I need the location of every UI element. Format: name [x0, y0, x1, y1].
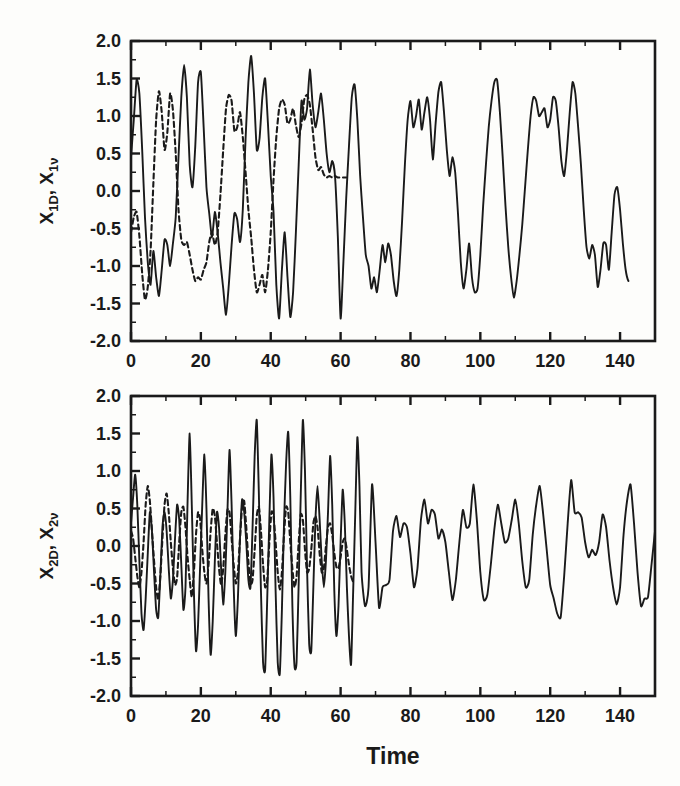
ytick-label: -2.0	[90, 331, 121, 351]
ytick-label: 0.5	[96, 499, 121, 519]
xtick-label: 100	[465, 706, 495, 726]
xtick-label: 20	[191, 351, 211, 371]
panel-top: 020406080100120140-2.0-1.5-1.0-0.50.00.5…	[36, 31, 655, 371]
xtick-label: 120	[535, 706, 565, 726]
ytick-label: 0.5	[96, 144, 121, 164]
ytick-label: 1.0	[96, 461, 121, 481]
ytick-label: 0.0	[96, 181, 121, 201]
ytick-label: -2.0	[90, 686, 121, 706]
ytick-label: 1.5	[96, 69, 121, 89]
ytick-label: 1.5	[96, 424, 121, 444]
x-axis-label-bottom: Time	[366, 743, 419, 769]
xtick-label: 80	[400, 351, 420, 371]
xtick-label: 60	[331, 351, 351, 371]
series-group-top	[131, 56, 628, 319]
panel-bottom: 020406080100120140-2.0-1.5-1.0-0.50.00.5…	[36, 386, 655, 769]
y-axis-label-text: X1D, X1ν	[36, 157, 61, 224]
plot-frame-top	[131, 41, 655, 341]
xtick-label: 120	[535, 351, 565, 371]
xtick-label: 140	[605, 351, 635, 371]
ytick-label: -1.5	[90, 649, 121, 669]
xtick-label: 60	[331, 706, 351, 726]
two-panel-timeseries-figure: 020406080100120140-2.0-1.5-1.0-0.50.00.5…	[0, 0, 680, 786]
xtick-label: 0	[126, 706, 136, 726]
series-group-bottom	[131, 420, 655, 675]
ytick-label: -1.0	[90, 611, 121, 631]
xtick-label: 40	[261, 706, 281, 726]
y-axis-label-bottom: X2D, X2ν	[36, 512, 61, 579]
ytick-label: -1.5	[90, 294, 121, 314]
y-axis-label-text: X2D, X2ν	[36, 512, 61, 579]
ytick-label: 1.0	[96, 106, 121, 126]
minor-ticks-top	[131, 41, 655, 341]
xtick-label: 0	[126, 351, 136, 371]
figure-container: 020406080100120140-2.0-1.5-1.0-0.50.00.5…	[0, 0, 680, 786]
xtick-label: 20	[191, 706, 211, 726]
series-solid-top	[131, 56, 628, 319]
xtick-label: 80	[400, 706, 420, 726]
ytick-label: -0.5	[90, 574, 121, 594]
ytick-label: -0.5	[90, 219, 121, 239]
xtick-label: 100	[465, 351, 495, 371]
ytick-label: 2.0	[96, 386, 121, 406]
major-ticks-top	[131, 41, 620, 341]
ytick-label: -1.0	[90, 256, 121, 276]
ytick-label: 2.0	[96, 31, 121, 51]
xtick-label: 140	[605, 706, 635, 726]
y-axis-label-top: X1D, X1ν	[36, 157, 61, 224]
xtick-label: 40	[261, 351, 281, 371]
ytick-label: 0.0	[96, 536, 121, 556]
